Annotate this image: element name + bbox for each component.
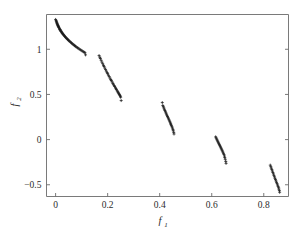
plot-background [0, 0, 302, 235]
x-axis-title-subscript: 1 [164, 221, 168, 229]
x-tick-label: 0.2 [102, 200, 114, 210]
x-tick-label: 0.8 [258, 200, 270, 210]
y-tick-label: 0.5 [30, 90, 42, 100]
y-tick-label: −0.5 [24, 180, 41, 190]
scatter-plot: 00.20.40.60.8 10.50−0.5 f 1 f 2 [0, 0, 302, 235]
x-tick-label: 0.4 [154, 200, 166, 210]
y-tick-label: 0 [37, 135, 42, 145]
x-tick-label: 0.6 [206, 200, 218, 210]
y-axis-title-subscript: 2 [15, 97, 23, 101]
figure-container: 00.20.40.60.8 10.50−0.5 f 1 f 2 [0, 0, 302, 235]
x-tick-label: 0 [53, 200, 58, 210]
y-tick-label: 1 [37, 45, 42, 55]
